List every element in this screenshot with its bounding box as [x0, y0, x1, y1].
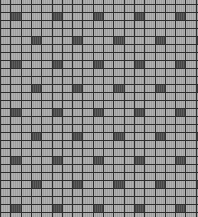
dark-tile: [134, 12, 144, 20]
dark-tile: [93, 108, 103, 116]
grid-line-horizontal: [0, 108, 198, 109]
dark-tile: [175, 204, 185, 212]
grid-line-horizontal: [0, 204, 198, 205]
grid-line-horizontal: [0, 156, 198, 157]
dark-tile: [155, 180, 165, 188]
dark-tile: [175, 60, 185, 68]
grid-line-horizontal: [0, 4, 198, 5]
dark-tile: [155, 36, 165, 44]
dark-tile: [175, 156, 185, 164]
dark-tile: [113, 84, 123, 92]
grid-line-horizontal: [0, 172, 198, 173]
dark-tile: [134, 156, 144, 164]
dark-tile: [175, 12, 185, 20]
grid-line-horizontal: [0, 212, 198, 213]
grid-line-horizontal: [0, 20, 198, 21]
dark-tile: [93, 204, 103, 212]
grid-line-horizontal: [0, 92, 198, 93]
grid-line-horizontal: [0, 164, 198, 165]
dark-tile: [93, 60, 103, 68]
grid-line-horizontal: [0, 180, 198, 181]
dark-tile: [31, 132, 41, 140]
grid-line-horizontal: [0, 44, 198, 45]
grid-line-horizontal: [0, 148, 198, 149]
dark-tile: [31, 180, 41, 188]
dark-tile: [155, 84, 165, 92]
dark-tile: [31, 84, 41, 92]
dark-tile: [93, 156, 103, 164]
grid-line-horizontal: [0, 36, 198, 37]
dark-tile: [72, 132, 82, 140]
tile-grid: [0, 0, 198, 217]
dark-tile: [72, 36, 82, 44]
dark-tile: [113, 180, 123, 188]
grid-line-horizontal: [0, 132, 198, 133]
dark-tile: [52, 108, 62, 116]
dark-tile: [134, 204, 144, 212]
grid-line-horizontal: [0, 60, 198, 61]
dark-tile: [175, 108, 185, 116]
grid-line-horizontal: [0, 196, 198, 197]
dark-tile: [113, 132, 123, 140]
dark-tile: [10, 60, 20, 68]
dark-tile: [155, 132, 165, 140]
grid-line-horizontal: [0, 188, 198, 189]
dark-tile: [31, 36, 41, 44]
dark-tile: [10, 156, 20, 164]
dark-tile: [72, 180, 82, 188]
dark-tile: [72, 84, 82, 92]
grid-line-horizontal: [0, 76, 198, 77]
grid-line-horizontal: [0, 116, 198, 117]
dark-tile: [134, 108, 144, 116]
grid-line-horizontal: [0, 12, 198, 13]
dark-tile: [52, 156, 62, 164]
dark-tile: [52, 12, 62, 20]
grid-line-horizontal: [0, 84, 198, 85]
dark-tile: [52, 60, 62, 68]
grid-line-horizontal: [0, 140, 198, 141]
dark-tile: [134, 60, 144, 68]
dark-tile: [10, 12, 20, 20]
dark-tile: [10, 108, 20, 116]
grid-line-horizontal: [0, 124, 198, 125]
dark-tile: [113, 36, 123, 44]
dark-tile: [93, 12, 103, 20]
dark-tile: [52, 204, 62, 212]
grid-line-horizontal: [0, 68, 198, 69]
grid-line-horizontal: [0, 28, 198, 29]
grid-line-horizontal: [0, 52, 198, 53]
grid-line-horizontal: [0, 100, 198, 101]
dark-tile: [10, 204, 20, 212]
